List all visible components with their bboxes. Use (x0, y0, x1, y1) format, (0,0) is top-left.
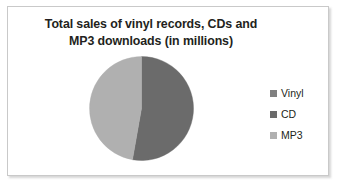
legend-swatch-icon-mp3 (270, 132, 277, 139)
legend-item-vinyl[interactable]: Vinyl (270, 83, 328, 104)
chart-screenshot: Total sales of vinyl records, CDs and MP… (0, 0, 339, 188)
legend-swatch-icon-cd (270, 111, 277, 118)
chart-title-line-2: MP3 downloads (in millions) (22, 33, 280, 50)
chart-title-line-1: Total sales of vinyl records, CDs and (22, 16, 280, 33)
chart-container: Total sales of vinyl records, CDs and MP… (8, 7, 328, 175)
legend-label-vinyl: Vinyl (281, 88, 304, 99)
plot-area (22, 55, 274, 173)
legend-label-cd: CD (281, 109, 296, 120)
legend-item-mp3[interactable]: MP3 (270, 125, 328, 146)
pie-chart (89, 56, 194, 161)
legend-swatch-icon-vinyl (270, 90, 277, 97)
pie-slices (89, 57, 193, 161)
pie-chart-svg (89, 56, 194, 161)
legend-label-mp3: MP3 (281, 130, 303, 141)
pie-slice-mp3[interactable] (89, 57, 141, 160)
legend-item-cd[interactable]: CD (270, 104, 328, 125)
chart-legend: Vinyl CD MP3 (270, 83, 328, 146)
chart-title: Total sales of vinyl records, CDs and MP… (22, 16, 280, 50)
chart-card-frame: Total sales of vinyl records, CDs and MP… (7, 6, 329, 176)
